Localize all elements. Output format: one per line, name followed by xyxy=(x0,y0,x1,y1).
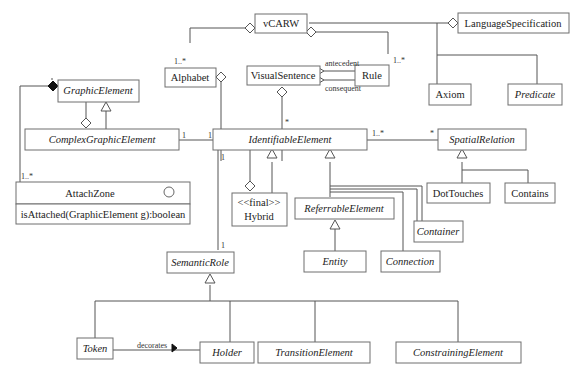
class-graphic-element[interactable]: GraphicElement xyxy=(58,80,139,102)
class-alphabet[interactable]: Alphabet xyxy=(165,68,216,87)
rule-multiplicity: 1..* xyxy=(393,56,405,65)
class-hybrid[interactable]: <<final>> Hybrid xyxy=(232,193,287,226)
complex-graphic-element-label: ComplexGraphicElement xyxy=(49,134,157,145)
class-spatial-relation[interactable]: SpatialRelation xyxy=(438,129,526,150)
re-entity-triangle-icon xyxy=(330,220,340,229)
vcarw-label: vCARW xyxy=(263,18,299,29)
class-identifiable-element[interactable]: IdentifiableElement xyxy=(213,129,367,150)
decorates-direction-icon xyxy=(172,344,177,352)
class-predicate[interactable]: Predicate xyxy=(508,84,562,105)
rule-label: Rule xyxy=(362,70,382,81)
class-visual-sentence[interactable]: VisualSentence xyxy=(247,66,320,85)
token-label: Token xyxy=(83,343,108,354)
ie-left-multiplicity: 1 xyxy=(208,131,212,140)
connection-label: Connection xyxy=(386,256,434,267)
visual-sentence-label: VisualSentence xyxy=(251,70,316,81)
transition-element-label: TransitionElement xyxy=(275,347,354,358)
class-transition-element[interactable]: TransitionElement xyxy=(258,342,370,363)
cge-ge-triangle-icon xyxy=(101,102,111,111)
vcarw-rule-line xyxy=(316,32,388,54)
sem-triangle-icon xyxy=(205,274,215,283)
interface-circle-icon xyxy=(164,187,174,197)
alphabet-label: Alphabet xyxy=(171,72,210,83)
graphic-element-label: GraphicElement xyxy=(63,85,133,96)
consequent-label: consequent xyxy=(325,84,362,93)
antecedent-label: antecedent xyxy=(325,59,360,68)
referrable-element-label: ReferrableElement xyxy=(303,203,384,214)
semantic-role-label: SemanticRole xyxy=(171,257,229,268)
ge-composition-diamond-icon xyxy=(48,81,58,91)
class-language-specification[interactable]: LanguageSpecification xyxy=(458,13,569,33)
class-constraining-element[interactable]: ConstrainingElement xyxy=(396,342,521,363)
class-holder[interactable]: Holder xyxy=(200,342,254,363)
langspec-diamond-icon xyxy=(448,18,458,28)
vcarw-alphabet-diamond-icon xyxy=(245,23,255,33)
holder-label: Holder xyxy=(211,347,243,358)
ge-cge-diamond-icon xyxy=(81,118,91,128)
axiom-label: Axiom xyxy=(435,89,464,100)
class-entity[interactable]: Entity xyxy=(304,251,366,272)
hybrid-stereotype: <<final>> xyxy=(238,197,281,208)
decorates-label: decorates xyxy=(137,341,167,350)
ie-hybrid-diamond-icon xyxy=(245,181,255,191)
class-token[interactable]: Token xyxy=(77,338,113,359)
class-container[interactable]: Container xyxy=(414,221,463,242)
alphabet-diamond-icon xyxy=(216,72,226,82)
class-rule[interactable]: Rule xyxy=(355,65,389,86)
ie-down-multiplicity: 1 xyxy=(221,153,225,162)
dot-touches-label: DotTouches xyxy=(433,188,484,199)
sr-multiplicity: * xyxy=(430,129,434,138)
container-label: Container xyxy=(417,226,460,237)
language-specification-label: LanguageSpecification xyxy=(465,18,563,29)
constraining-element-label: ConstrainingElement xyxy=(413,347,504,358)
predicate-label: Predicate xyxy=(514,89,556,100)
class-vcarw[interactable]: vCARW xyxy=(255,14,307,33)
vcarw-alphabet-line xyxy=(190,28,245,43)
spatial-relation-label: SpatialRelation xyxy=(449,134,514,145)
class-semantic-role[interactable]: SemanticRole xyxy=(167,252,234,273)
class-connection[interactable]: Connection xyxy=(381,251,440,272)
sr-contains-line xyxy=(462,170,528,183)
alphabet-multiplicity: 1..* xyxy=(174,57,186,66)
class-referrable-element[interactable]: ReferrableElement xyxy=(295,198,394,219)
cge-multiplicity: 1 xyxy=(182,131,186,140)
uml-class-diagram: vCARW LanguageSpecification Alphabet Vis… xyxy=(0,0,579,378)
vs-diamond-icon xyxy=(277,87,287,97)
semantic-role-multiplicity: 1 xyxy=(221,241,225,250)
attach-zone-multiplicity: 1..* xyxy=(21,172,33,181)
class-dot-touches[interactable]: DotTouches xyxy=(427,183,490,203)
visual-sentence-multiplicity: * xyxy=(285,118,289,127)
contains-label: Contains xyxy=(511,188,548,199)
attach-zone-operation: isAttached(GraphicElement g):boolean xyxy=(21,209,186,221)
entity-label: Entity xyxy=(321,256,347,267)
hybrid-label: Hybrid xyxy=(244,211,274,222)
ie-right-multiplicity: 1..* xyxy=(372,129,384,138)
class-attach-zone[interactable]: AttachZone isAttached(GraphicElement g):… xyxy=(16,182,190,224)
langspec-predicate-line xyxy=(437,55,537,84)
class-contains[interactable]: Contains xyxy=(505,183,555,203)
class-axiom[interactable]: Axiom xyxy=(429,84,471,105)
class-complex-graphic-element[interactable]: ComplexGraphicElement xyxy=(25,129,179,150)
attach-zone-label: AttachZone xyxy=(65,188,115,199)
identifiable-element-label: IdentifiableElement xyxy=(248,134,333,145)
